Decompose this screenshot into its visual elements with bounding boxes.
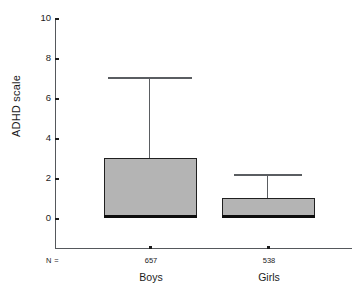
y-axis-tick-0 — [55, 218, 59, 220]
y-axis-tick-label-4: 4 — [11, 133, 51, 143]
y-axis-tick-label-8: 8 — [11, 53, 51, 63]
y-axis-tick-label-0: 0 — [11, 213, 51, 223]
x-axis-tick-girls — [267, 246, 270, 249]
x-axis-tick-boys — [149, 246, 152, 249]
box-plot-figure: ADHD scale 10 8 6 4 2 0 N = 657 538 Boys… — [0, 0, 359, 299]
y-axis-tick-8 — [55, 58, 59, 60]
y-axis-tick-label-2: 2 — [11, 173, 51, 183]
boys-median-line — [104, 215, 197, 218]
y-axis-tick-4 — [55, 138, 59, 140]
y-axis-tick-2 — [55, 178, 59, 180]
boys-box — [104, 158, 197, 218]
y-axis-tick-10 — [55, 18, 59, 20]
n-value-girls: 538 — [239, 256, 299, 265]
category-label-boys: Boys — [111, 271, 191, 283]
n-equals-label: N = — [46, 256, 59, 265]
y-axis-tick-6 — [55, 98, 59, 100]
y-axis-tick-label-6: 6 — [11, 93, 51, 103]
n-value-boys: 657 — [121, 256, 181, 265]
boys-upper-whisker-stem — [149, 77, 150, 158]
x-axis-line — [55, 248, 352, 249]
category-label-girls: Girls — [229, 271, 309, 283]
y-axis-line — [55, 18, 56, 249]
y-axis-tick-label-10: 10 — [11, 13, 51, 23]
girls-median-line — [222, 215, 315, 218]
girls-upper-whisker-stem — [267, 174, 268, 198]
